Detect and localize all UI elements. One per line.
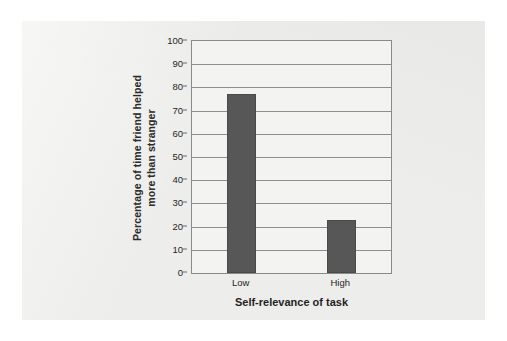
y-axis-tick-mark — [183, 202, 187, 203]
gridline — [192, 134, 391, 135]
y-axis-tick-label: 80 — [172, 81, 183, 92]
gridline — [192, 203, 391, 204]
y-axis-tick-mark — [183, 225, 187, 226]
gridline — [192, 250, 391, 251]
gridline — [192, 157, 391, 158]
bar-low — [227, 94, 256, 273]
y-axis-tick-label: 50 — [172, 151, 183, 162]
y-axis-tick-mark — [183, 248, 187, 249]
y-axis-tick-label: 90 — [172, 58, 183, 69]
bar-high — [327, 220, 356, 273]
y-axis-tick-mark — [183, 63, 187, 64]
plot-area — [191, 40, 392, 274]
y-axis-tick-mark — [183, 132, 187, 133]
gridline — [192, 111, 391, 112]
y-axis-tick-labels: 0102030405060708090100 — [152, 40, 187, 274]
y-axis-tick-label: 40 — [172, 174, 183, 185]
gridline — [192, 64, 391, 65]
y-axis-tick-label: 100 — [167, 35, 183, 46]
y-axis-label-line-1: Percentage of time friend helped — [130, 75, 144, 241]
y-axis-tick-label: 10 — [172, 243, 183, 254]
gridline — [192, 87, 391, 88]
x-axis-tick-label-high: High — [330, 277, 350, 288]
y-axis-tick-label: 30 — [172, 197, 183, 208]
y-axis-tick-mark — [183, 156, 187, 157]
x-axis-tick-label-low: Low — [232, 277, 249, 288]
y-axis-tick-mark — [183, 272, 187, 273]
gridline — [192, 227, 391, 228]
figure-root: Percentage of time friend helped more th… — [0, 0, 507, 341]
y-axis-tick-mark — [183, 40, 187, 41]
y-axis-tick-mark — [183, 179, 187, 180]
y-axis-tick-label: 60 — [172, 127, 183, 138]
y-axis-tick-mark — [183, 109, 187, 110]
y-axis-tick-mark — [183, 86, 187, 87]
gridline — [192, 180, 391, 181]
y-axis-tick-label: 20 — [172, 220, 183, 231]
y-axis-tick-label: 70 — [172, 104, 183, 115]
x-axis-tick-labels: LowHigh — [191, 277, 392, 291]
x-axis-label: Self-relevance of task — [191, 296, 392, 308]
